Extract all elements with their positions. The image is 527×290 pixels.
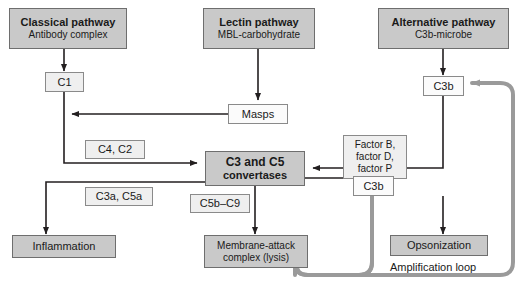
factor-d-label: factor D, [356,151,394,163]
classical-pathway-heading: Classical pathway [21,16,116,29]
factors-box: Factor B, factor D, factor P [343,135,407,179]
classical-pathway-box: Classical pathway Antibody complex [9,8,127,49]
convertases-line1: C3 and C5 [226,155,285,169]
convertases-box: C3 and C5 convertases [205,151,305,186]
amplification-loop-label: Amplification loop [390,261,476,273]
factor-p-label: factor P [358,163,392,175]
c5b-c9-label: C5b–C9 [200,197,240,210]
c3a-c5a-label: C3a, C5a [96,190,142,203]
c4-c2-label: C4, C2 [98,143,132,156]
c3b-lower-box: C3b [353,176,394,196]
inflammation-box: Inflammation [12,235,116,258]
membrane-attack-complex-box: Membrane-attack complex (lysis) [204,235,308,268]
opsonization-label: Opsonization [407,239,471,252]
factor-b-label: Factor B, [355,139,396,151]
complement-pathway-diagram: Classical pathway Antibody complex Lecti… [0,0,527,290]
c1-box: C1 [45,72,84,92]
lectin-pathway-sub: MBL-carbohydrate [218,29,300,41]
lectin-pathway-heading: Lectin pathway [219,16,298,29]
masps-label: Masps [242,108,274,121]
c3b-lower-label: C3b [363,180,383,193]
c3b-top-box: C3b [423,76,464,96]
mac-line1: Membrane-attack [217,240,295,252]
c3b-top-label: C3b [433,80,453,93]
masps-box: Masps [228,104,288,124]
classical-pathway-sub: Antibody complex [29,29,108,41]
c3a-c5a-box: C3a, C5a [85,187,153,206]
inflammation-label: Inflammation [33,240,96,253]
convertases-line2: convertases [223,169,287,182]
opsonization-box: Opsonization [390,235,488,256]
alternative-pathway-box: Alternative pathway C3b-microbe [378,8,509,49]
alternative-pathway-sub: C3b-microbe [415,29,472,41]
c1-label: C1 [57,76,71,89]
lectin-pathway-box: Lectin pathway MBL-carbohydrate [203,8,315,49]
c4-c2-box: C4, C2 [85,140,145,159]
c5b-c9-box: C5b–C9 [190,194,250,213]
alternative-pathway-heading: Alternative pathway [392,16,496,29]
mac-line2: complex (lysis) [223,252,289,264]
